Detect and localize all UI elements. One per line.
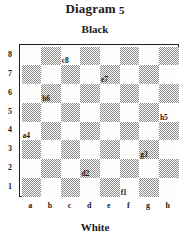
- square-a4[interactable]: a4: [22, 122, 42, 141]
- file-label-d: d: [82, 201, 96, 210]
- square-d2[interactable]: d2: [80, 159, 100, 178]
- chessboard-grid: c8e7b6h5a4g3d2f1: [22, 47, 179, 197]
- square-d1[interactable]: [80, 178, 100, 197]
- file-label-f: f: [121, 201, 135, 210]
- square-h4[interactable]: [159, 122, 179, 141]
- square-b4[interactable]: [41, 122, 61, 141]
- square-h2[interactable]: [159, 159, 179, 178]
- rank-label-3: 3: [4, 144, 16, 153]
- square-c3[interactable]: [61, 140, 81, 159]
- square-h1[interactable]: [159, 178, 179, 197]
- square-g6[interactable]: [139, 84, 159, 103]
- square-g5[interactable]: [139, 103, 159, 122]
- square-b7[interactable]: [41, 65, 61, 84]
- square-label-c8: c8: [62, 56, 69, 65]
- square-e3[interactable]: [100, 140, 120, 159]
- square-f4[interactable]: [120, 122, 140, 141]
- square-e2[interactable]: [100, 159, 120, 178]
- square-c7[interactable]: [61, 65, 81, 84]
- square-label-f1: f1: [121, 188, 127, 197]
- square-h8[interactable]: [159, 47, 179, 66]
- square-b6[interactable]: b6: [41, 84, 61, 103]
- square-f1[interactable]: f1: [120, 178, 140, 197]
- square-label-b6: b6: [42, 94, 50, 103]
- square-d7[interactable]: [80, 65, 100, 84]
- square-f3[interactable]: [120, 140, 140, 159]
- square-c4[interactable]: [61, 122, 81, 141]
- square-label-h5: h5: [160, 113, 168, 122]
- square-h6[interactable]: [159, 84, 179, 103]
- square-a3[interactable]: [22, 140, 42, 159]
- square-c6[interactable]: [61, 84, 81, 103]
- diagram-number: 5: [116, 4, 125, 16]
- square-h5[interactable]: h5: [159, 103, 179, 122]
- square-f6[interactable]: [120, 84, 140, 103]
- square-c5[interactable]: [61, 103, 81, 122]
- square-g4[interactable]: [139, 122, 159, 141]
- square-f7[interactable]: [120, 65, 140, 84]
- rank-label-2: 2: [4, 163, 16, 172]
- square-c8[interactable]: c8: [61, 47, 81, 66]
- square-f8[interactable]: [120, 47, 140, 66]
- square-e4[interactable]: [100, 122, 120, 141]
- square-c1[interactable]: [61, 178, 81, 197]
- square-e1[interactable]: [100, 178, 120, 197]
- square-b3[interactable]: [41, 140, 61, 159]
- chessboard: c8e7b6h5a4g3d2f1: [19, 44, 179, 197]
- square-c2[interactable]: [61, 159, 81, 178]
- file-label-b: b: [43, 201, 57, 210]
- square-e5[interactable]: [100, 103, 120, 122]
- square-b8[interactable]: [41, 47, 61, 66]
- square-a5[interactable]: [22, 103, 42, 122]
- square-d6[interactable]: [80, 84, 100, 103]
- square-g3[interactable]: g3: [139, 140, 159, 159]
- rank-label-1: 1: [4, 182, 16, 191]
- square-g8[interactable]: [139, 47, 159, 66]
- rank-label-6: 6: [4, 88, 16, 97]
- diagram-title-word: Diagram: [65, 1, 116, 16]
- square-g1[interactable]: [139, 178, 159, 197]
- square-g7[interactable]: [139, 65, 159, 84]
- square-a2[interactable]: [22, 159, 42, 178]
- square-d5[interactable]: [80, 103, 100, 122]
- rank-label-4: 4: [4, 125, 16, 134]
- page-title: Diagram5: [0, 1, 190, 17]
- file-label-h: h: [161, 201, 175, 210]
- file-label-e: e: [102, 201, 116, 210]
- square-a6[interactable]: [22, 84, 42, 103]
- square-d8[interactable]: [80, 47, 100, 66]
- square-f2[interactable]: [120, 159, 140, 178]
- square-h3[interactable]: [159, 140, 179, 159]
- rank-label-8: 8: [4, 50, 16, 59]
- square-label-d2: d2: [81, 169, 89, 178]
- rank-label-7: 7: [4, 69, 16, 78]
- chess-diagram: c8e7b6h5a4g3d2f1: [19, 44, 179, 197]
- square-a8[interactable]: [22, 47, 42, 66]
- square-e7[interactable]: e7: [100, 65, 120, 84]
- square-label-e7: e7: [101, 75, 108, 84]
- square-b1[interactable]: [41, 178, 61, 197]
- square-d4[interactable]: [80, 122, 100, 141]
- square-d3[interactable]: [80, 140, 100, 159]
- file-label-c: c: [63, 201, 77, 210]
- black-side-label: Black: [0, 23, 190, 35]
- square-a7[interactable]: [22, 65, 42, 84]
- square-label-a4: a4: [23, 131, 30, 140]
- square-a1[interactable]: [22, 178, 42, 197]
- file-label-g: g: [141, 201, 155, 210]
- square-h7[interactable]: [159, 65, 179, 84]
- square-label-g3: g3: [140, 150, 147, 159]
- file-label-a: a: [23, 201, 37, 210]
- square-e6[interactable]: [100, 84, 120, 103]
- square-g2[interactable]: [139, 159, 159, 178]
- square-b2[interactable]: [41, 159, 61, 178]
- white-side-label: White: [0, 221, 190, 233]
- square-b5[interactable]: [41, 103, 61, 122]
- rank-label-5: 5: [4, 107, 16, 116]
- square-f5[interactable]: [120, 103, 140, 122]
- square-e8[interactable]: [100, 47, 120, 66]
